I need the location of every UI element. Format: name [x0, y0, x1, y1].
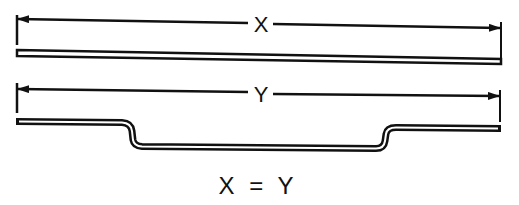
- bar-length-diagram: X Y X = Y: [0, 0, 519, 205]
- dimension-x-right-arrow: [273, 24, 500, 28]
- dimension-y: Y: [17, 82, 500, 122]
- dimension-y-left-arrow: [18, 89, 248, 92]
- straight-bar: [17, 50, 501, 64]
- bent-bar-outer: [17, 122, 500, 149]
- dimension-y-right-arrow: [273, 94, 499, 96]
- bent-bar: [17, 118, 500, 149]
- dimension-x-label: X: [254, 12, 269, 37]
- straight-bar-outline: [17, 50, 501, 64]
- dimension-x-left-arrow: [18, 19, 248, 23]
- dimension-y-label: Y: [254, 82, 269, 107]
- equation-caption: X = Y: [219, 172, 298, 199]
